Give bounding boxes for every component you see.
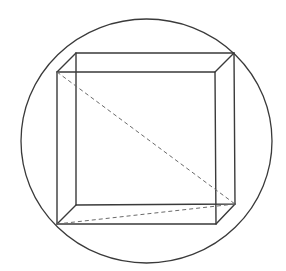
dashed-diagonals [57,72,235,224]
back-face [76,53,235,205]
front-face [57,72,216,224]
space-diagonal-dashed-line [57,72,235,204]
connecting-edges [57,53,235,224]
front-face-square [57,72,216,224]
diagram-canvas [0,0,286,271]
edge-top-right [215,53,234,72]
base-diagonal-dashed-line [57,204,235,224]
edge-top-left [57,53,76,72]
cube-in-sphere-figure [0,0,286,271]
back-face-square [76,53,235,205]
edge-bottom-right [216,204,235,224]
edge-bottom-left [57,205,76,224]
